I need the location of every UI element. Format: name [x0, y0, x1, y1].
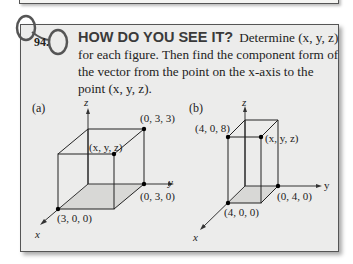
- figure-b-diagram: [0, 0, 353, 264]
- figure-b-point-1: (4, 0, 8): [195, 122, 230, 134]
- figure-b-x-axis-label: x: [193, 231, 198, 243]
- figure-b-z-axis-label: z: [242, 96, 246, 108]
- figure-b-y-axis-label: y: [324, 179, 330, 191]
- figure-b-point-xyz: (x, y, z): [265, 132, 299, 144]
- figure-b-point-4: (4, 0, 0): [224, 206, 259, 218]
- figure-b-point-3: (0, 4, 0): [277, 190, 312, 202]
